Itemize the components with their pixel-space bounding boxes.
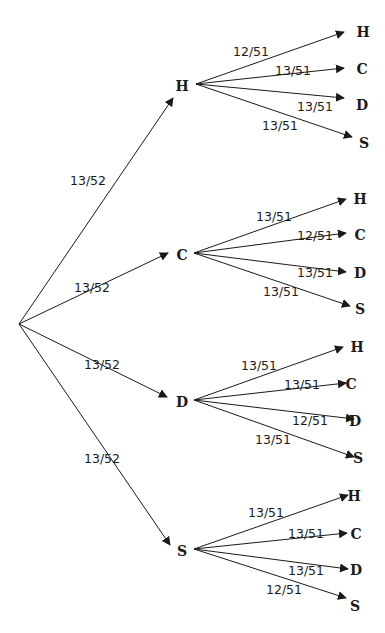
probability-label: 13/52: [84, 357, 120, 372]
leaf-ss: S: [350, 598, 360, 614]
tree-labels: H13/52H12/51C13/51D13/51S13/51C13/52H13/…: [70, 24, 370, 614]
leaf-dh: H: [350, 339, 363, 355]
branch-d-to-d: [194, 400, 354, 419]
node-h: H: [175, 78, 188, 94]
probability-label: 13/51: [248, 505, 284, 520]
branch-d-to-s: [194, 400, 354, 457]
leaf-ch: H: [353, 191, 366, 207]
branch-s-to-d: [194, 549, 348, 569]
probability-label: 13/51: [297, 265, 333, 280]
probability-label: 12/51: [233, 44, 269, 59]
probability-label: 13/52: [70, 173, 106, 188]
probability-label: 13/51: [256, 209, 292, 224]
leaf-dd: D: [349, 413, 361, 429]
probability-label: 13/52: [74, 280, 110, 295]
tree-edges: [19, 32, 354, 598]
leaf-ds: S: [353, 450, 363, 466]
probability-label: 13/51: [262, 118, 298, 133]
probability-label: 13/51: [284, 377, 320, 392]
branch-c-to-h: [194, 199, 346, 253]
node-s: S: [177, 543, 187, 559]
probability-label: 13/51: [263, 284, 299, 299]
leaf-hc: C: [356, 61, 367, 77]
leaf-hs: S: [359, 135, 369, 151]
probability-label: 13/51: [275, 63, 311, 78]
branch-h-to-d: [196, 84, 344, 98]
node-c: C: [176, 247, 187, 263]
probability-label: 12/51: [266, 582, 302, 597]
probability-label: 13/51: [288, 526, 324, 541]
leaf-dc: C: [345, 376, 356, 392]
leaf-sd: D: [350, 562, 362, 578]
probability-tree-diagram: H13/52H12/51C13/51D13/51S13/51C13/52H13/…: [0, 0, 385, 633]
probability-label: 13/51: [255, 432, 291, 447]
leaf-hh: H: [356, 24, 369, 40]
leaf-hd: D: [356, 97, 368, 113]
leaf-cd: D: [354, 265, 366, 281]
probability-label: 13/51: [241, 358, 277, 373]
node-d: D: [176, 394, 188, 410]
probability-label: 13/51: [297, 99, 333, 114]
probability-label: 12/51: [297, 228, 333, 243]
leaf-sc: C: [350, 526, 361, 542]
probability-label: 13/51: [288, 563, 324, 578]
leaf-cc: C: [354, 227, 365, 243]
leaf-sh: H: [347, 488, 360, 504]
leaf-cs: S: [355, 301, 365, 317]
probability-label: 13/52: [84, 451, 120, 466]
probability-label: 12/51: [292, 413, 328, 428]
